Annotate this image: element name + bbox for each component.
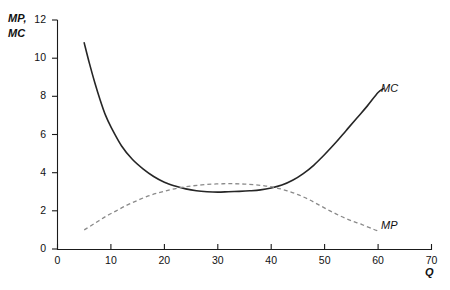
mc-series-label: MC xyxy=(381,82,398,94)
axes xyxy=(58,20,433,250)
mc-curve xyxy=(84,43,383,192)
x-tick-label: 70 xyxy=(420,254,444,266)
y-tick-label: 8 xyxy=(26,89,46,101)
y-tick-label: 2 xyxy=(26,204,46,216)
y-axis-tick-marks xyxy=(52,20,58,249)
mp-mc-chart-figure: MP, MC Q MC MP 024681012 010203040506070 xyxy=(0,0,450,290)
x-tick-label: 10 xyxy=(99,254,123,266)
x-axis-title: Q xyxy=(425,266,434,278)
mp-curve xyxy=(84,184,378,231)
x-tick-label: 40 xyxy=(259,254,283,266)
x-tick-label: 20 xyxy=(152,254,176,266)
y-tick-label: 0 xyxy=(26,242,46,254)
y-tick-label: 4 xyxy=(26,166,46,178)
x-tick-label: 60 xyxy=(366,254,390,266)
y-tick-label: 10 xyxy=(26,51,46,63)
y-tick-label: 12 xyxy=(26,13,46,25)
x-tick-label: 0 xyxy=(46,254,70,266)
x-tick-label: 30 xyxy=(206,254,230,266)
mp-series-label: MP xyxy=(381,219,398,231)
y-axis-title-line-2: MC xyxy=(8,27,26,39)
chart-plot-area xyxy=(0,0,450,290)
y-axis-title-line-1: MP, xyxy=(8,12,27,24)
x-tick-label: 50 xyxy=(313,254,337,266)
y-tick-label: 6 xyxy=(26,128,46,140)
